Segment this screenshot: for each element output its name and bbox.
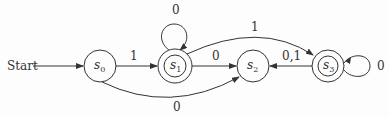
state-s0: s0 <box>84 50 116 82</box>
edge-s1-loop <box>161 24 186 51</box>
edge-label-s1-s3: 1 <box>251 20 259 34</box>
edge-s3-loop-arrowhead <box>345 57 351 64</box>
state-s3: s3 <box>312 50 344 82</box>
edge-label-s3-s2: 0,1 <box>282 49 301 63</box>
edge-label-s0-s1: 1 <box>130 49 138 63</box>
edge-label-s1-s2: 0 <box>212 49 220 63</box>
state-s2: s2 <box>237 50 269 82</box>
edge-label-s1-loop: 0 <box>172 3 180 17</box>
state-s1: s1 <box>158 49 192 83</box>
edge-s3-loop <box>344 56 370 77</box>
state-diagram: Start 1 0 0 0 1 0,1 0 s0 s1 s2 s3 <box>0 0 389 117</box>
edge-label-s0-s2: 0 <box>173 100 181 114</box>
edge-label-s3-loop: 0 <box>377 59 385 73</box>
